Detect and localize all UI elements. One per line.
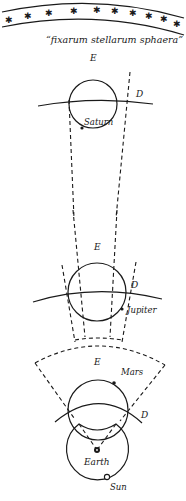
- star-icon: ✱: [145, 11, 153, 21]
- saturn-label-E: E: [89, 53, 97, 63]
- mars-label-D: D: [140, 410, 148, 420]
- saturn-deferent: [38, 100, 153, 106]
- saturn-label: Saturn: [84, 117, 113, 127]
- jupiter-label: Jupiter: [125, 305, 157, 315]
- jupiter-sightline-base: [75, 338, 122, 340]
- fixed-star-band: ✱ ✱ ✱ ✱ ✱ ✱ ✱ ✱ ✱ ✱ “fixarum stellarum s…: [2, 3, 184, 45]
- star-icon: ✱: [5, 15, 13, 25]
- star-icons: ✱ ✱ ✱ ✱ ✱ ✱ ✱ ✱ ✱ ✱: [5, 5, 181, 29]
- jupiter-label-D: D: [130, 280, 138, 290]
- earth-label: Earth: [83, 457, 110, 467]
- star-icon: ✱: [129, 8, 137, 18]
- star-band-lower-line: [2, 19, 184, 35]
- saturn-sightline-right: [116, 72, 130, 218]
- jupiter-label-E: E: [93, 242, 101, 252]
- jupiter-planet-dot: [120, 307, 123, 310]
- jupiter-system: E D Jupiter: [33, 210, 162, 342]
- star-icon: ✱: [93, 5, 101, 15]
- mars-label: Mars: [120, 367, 144, 377]
- star-icon: ✱: [45, 8, 53, 18]
- sun-icon: [104, 474, 109, 479]
- saturn-system: E D Saturn: [38, 53, 153, 218]
- mars-system: E D Mars: [35, 346, 165, 450]
- planetary-orbits-diagram: ✱ ✱ ✱ ✱ ✱ ✱ ✱ ✱ ✱ ✱ “fixarum stellarum s…: [0, 0, 186, 501]
- jupiter-deferent: [33, 292, 162, 302]
- star-icon: ✱: [70, 6, 78, 16]
- star-icon: ✱: [160, 14, 168, 24]
- star-icon: ✱: [24, 11, 32, 21]
- star-icon: ✱: [173, 19, 181, 29]
- sun-label: Sun: [110, 482, 127, 492]
- saturn-label-D: D: [135, 89, 143, 99]
- earth-sun-system: Earth Sun: [67, 424, 129, 492]
- jupiter-sightline-inner-right: [110, 210, 117, 337]
- caption-fixed-stars: “fixarum stellarum sphaera”: [46, 34, 183, 45]
- mars-label-E: E: [93, 357, 101, 367]
- mars-epicycle: [68, 380, 128, 440]
- mars-planet-dot: [112, 381, 116, 385]
- star-icon: ✱: [111, 6, 119, 16]
